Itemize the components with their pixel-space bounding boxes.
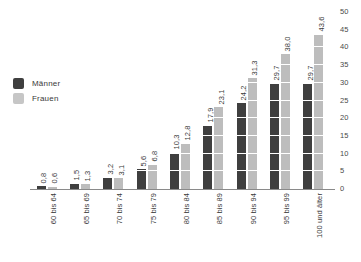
x-axis-tick-label: 75 bis 79 — [150, 193, 158, 224]
bar-slot: 24,2 — [237, 12, 246, 189]
x-axis-tick-label: 85 bis 89 — [216, 193, 224, 224]
bar-slot: 29,7 — [303, 12, 312, 189]
bar-pair: 5,66,8 — [130, 12, 163, 189]
bar-women: 3,1 — [114, 178, 123, 189]
bar-pair: 3,23,1 — [97, 12, 130, 189]
y-axis-tick-label: 5 — [340, 168, 344, 176]
x-axis-tick-label: 65 bis 69 — [83, 193, 91, 224]
bar-men: 17,9 — [203, 126, 212, 189]
x-axis-tick-label: 80 bis 84 — [183, 193, 191, 224]
bar-slot: 12,8 — [181, 12, 190, 189]
y-axis-tick-label: 30 — [340, 79, 349, 87]
bar-value-label: 29,7 — [273, 66, 281, 81]
bar-value-label: 1,5 — [73, 170, 81, 181]
bar-men: 24,2 — [237, 103, 246, 189]
bar-pair: 17,923,1 — [197, 12, 230, 189]
legend-swatch-men-icon — [13, 78, 24, 89]
bar-women: 6,8 — [148, 165, 157, 189]
bar-slot: 17,9 — [203, 12, 212, 189]
bar-group: 1,51,3 — [63, 12, 96, 189]
bar-value-label: 3,1 — [118, 164, 126, 175]
bar-value-label: 12,8 — [184, 126, 192, 141]
bar-value-label: 6,8 — [151, 151, 159, 162]
bar-men: 29,7 — [270, 84, 279, 189]
bar-slot: 10,3 — [170, 12, 179, 189]
bar-pair: 29,743,6 — [297, 12, 330, 189]
bar-women: 38,0 — [281, 54, 290, 189]
y-axis-tick-label: 15 — [340, 132, 349, 140]
bar-value-label: 0,8 — [40, 172, 48, 183]
y-axis-tick-label: 0 — [340, 185, 344, 193]
bar-group: 24,231,3 — [230, 12, 263, 189]
bar-value-label: 23,1 — [218, 89, 226, 104]
y-axis: 05101520253035404550 — [336, 0, 361, 262]
bar-slot: 1,3 — [81, 12, 90, 189]
bar-slot: 31,3 — [248, 12, 257, 189]
bar-value-label: 3,2 — [107, 164, 115, 175]
legend-swatch-women-icon — [13, 93, 24, 104]
bar-group: 0,80,6 — [30, 12, 63, 189]
bar-pair: 10,312,8 — [163, 12, 196, 189]
bar-value-label: 5,6 — [140, 155, 148, 166]
x-axis-tick-label: 60 bis 64 — [50, 193, 58, 224]
bar-value-label: 29,7 — [307, 66, 315, 81]
bar-pair: 24,231,3 — [230, 12, 263, 189]
bar-slot: 5,6 — [137, 12, 146, 189]
bar-women: 12,8 — [181, 144, 190, 189]
bar-value-label: 43,6 — [318, 17, 326, 32]
bar-group: 10,312,8 — [163, 12, 196, 189]
bar-slot: 43,6 — [314, 12, 323, 189]
bar-value-label: 38,0 — [284, 36, 292, 51]
bar-slot: 38,0 — [281, 12, 290, 189]
y-axis-tick-label: 10 — [340, 150, 349, 158]
bar-pair: 0,80,6 — [30, 12, 63, 189]
bar-group: 5,66,8 — [130, 12, 163, 189]
bar-women: 23,1 — [214, 107, 223, 189]
bar-value-label: 31,3 — [251, 60, 259, 75]
bar-group: 17,923,1 — [197, 12, 230, 189]
y-axis-tick-label: 40 — [340, 44, 349, 52]
x-axis-tick-label: 70 bis 74 — [116, 193, 124, 224]
bar-men: 29,7 — [303, 84, 312, 189]
bar-slot: 1,5 — [70, 12, 79, 189]
bar-value-label: 17,9 — [207, 108, 215, 123]
bar-slot: 29,7 — [270, 12, 279, 189]
y-axis-tick-label: 25 — [340, 97, 349, 105]
bar-value-label: 1,3 — [84, 171, 92, 182]
bar-pair: 1,51,3 — [63, 12, 96, 189]
bar-group: 29,743,6 — [297, 12, 330, 189]
x-axis-tick-label: 90 bis 94 — [250, 193, 258, 224]
x-axis-line — [30, 189, 335, 190]
y-axis-tick-label: 50 — [340, 8, 349, 16]
bar-pair: 29,738,0 — [263, 12, 296, 189]
bar-men: 5,6 — [137, 169, 146, 189]
x-axis-tick-label: 95 bis 99 — [283, 193, 291, 224]
y-axis-tick-label: 20 — [340, 114, 349, 122]
bar-chart: Männer Frauen 0,80,61,51,33,23,15,66,810… — [0, 0, 361, 262]
bar-value-label: 10,3 — [173, 135, 181, 150]
bar-women: 43,6 — [314, 35, 323, 189]
bar-value-label: 24,2 — [240, 85, 248, 100]
bar-men: 3,2 — [103, 178, 112, 189]
y-axis-tick-label: 35 — [340, 61, 349, 69]
bar-men: 10,3 — [170, 153, 179, 189]
x-axis-tick-label: 100 und älter — [316, 193, 324, 238]
bar-value-label: 0,6 — [51, 173, 59, 184]
bar-slot: 3,2 — [103, 12, 112, 189]
bar-slot: 0,6 — [48, 12, 57, 189]
bar-slot: 0,8 — [37, 12, 46, 189]
bar-group: 3,23,1 — [97, 12, 130, 189]
y-axis-tick-label: 45 — [340, 26, 349, 34]
bar-slot: 3,1 — [114, 12, 123, 189]
bar-slot: 6,8 — [148, 12, 157, 189]
bar-group: 29,738,0 — [263, 12, 296, 189]
bar-women: 31,3 — [248, 78, 257, 189]
plot-area: 0,80,61,51,33,23,15,66,810,312,817,923,1… — [30, 12, 330, 189]
bar-slot: 23,1 — [214, 12, 223, 189]
